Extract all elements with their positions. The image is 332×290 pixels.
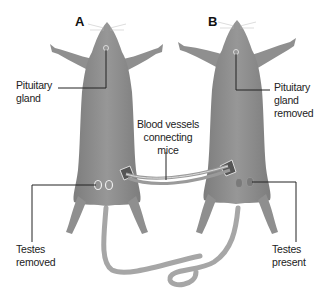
label-blood-vessels: Blood vessels connecting mice (130, 118, 206, 157)
label-testes-present-b: Testes present (272, 243, 306, 269)
mouse-b-right-leg (258, 194, 278, 234)
mouse-b-testis-1 (236, 179, 243, 188)
mouse-a-tail (104, 208, 200, 272)
label-pituitary-gland-a: Pituitary gland (16, 79, 52, 105)
mouse-b-left-leg (196, 194, 216, 234)
label-testes-removed-a: Testes removed (16, 243, 55, 269)
label-pituitary-gland-removed-b: Pituitary gland removed (274, 81, 313, 120)
panel-label-b: B (208, 14, 217, 29)
parabiosis-diagram: A B Pituitary gland Pituitary gland remo… (0, 0, 332, 290)
mouse-a-left-leg (66, 196, 86, 234)
panel-label-a: A (75, 14, 84, 29)
mouse-a-right-leg (128, 196, 148, 234)
